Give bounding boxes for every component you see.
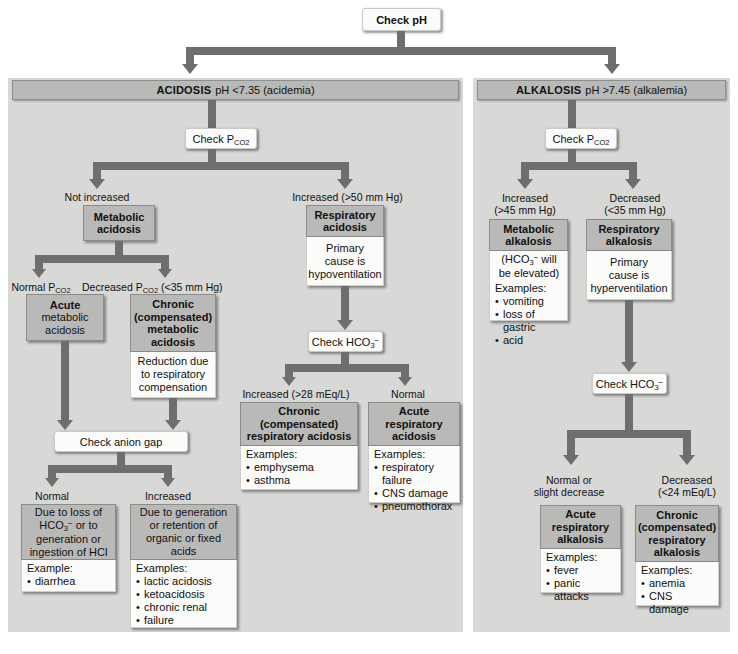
list-item: fever bbox=[546, 564, 616, 577]
acidosis-check-pco2-box: Check PCO2 bbox=[185, 128, 257, 149]
ac-resp-alk-l3: alkalosis bbox=[557, 533, 603, 545]
acid-hco3-drop-left bbox=[285, 364, 293, 378]
flowchart-canvas: Check pH ACIDOSIS pH <7.35 (acidemia) Ch… bbox=[0, 0, 738, 654]
alk-hco3-bus bbox=[567, 430, 691, 438]
anion-arrow-right bbox=[161, 478, 175, 487]
list-item: pneumothorax bbox=[374, 500, 455, 513]
chronic-met-l1: Chronic bbox=[152, 298, 194, 310]
met-acid-stem bbox=[115, 241, 123, 255]
met-acid-drop-right bbox=[161, 255, 169, 270]
alk-pco2-arrow-left bbox=[517, 179, 533, 189]
chr-resp-alk-l2: (compensated) bbox=[638, 521, 716, 533]
label-increased-50: Increased (>50 mm Hg) bbox=[285, 191, 410, 203]
alkalosis-title: ALKALOSIS bbox=[516, 84, 581, 96]
alkalosis-header-stem bbox=[568, 100, 576, 128]
label-alk-hco3-decreased: Decreased(<24 mEq/L) bbox=[646, 474, 728, 498]
respiratory-acidosis-header: Respiratory acidosis bbox=[306, 205, 384, 237]
acidosis-pco2-bus bbox=[93, 162, 349, 170]
met-alk-l2: alkalosis bbox=[505, 235, 551, 247]
alk-pco2-drop-right bbox=[629, 162, 637, 180]
chronic-met-b1: Reduction due bbox=[138, 355, 209, 367]
resp-acid-body3: hypoventilation bbox=[308, 268, 381, 280]
resp-alk-b3: hyperventilation bbox=[590, 282, 667, 294]
respiratory-alkalosis-header: Respiratory alkalosis bbox=[586, 219, 672, 251]
metabolic-alkalosis-header: Metabolic alkalosis bbox=[489, 219, 568, 251]
chronic-met-l4: acidosis bbox=[151, 336, 195, 348]
chr-resp-acid-l1: Chronic bbox=[278, 405, 320, 417]
acute-respiratory-acidosis-header: Acute respiratory acidosis bbox=[368, 402, 460, 446]
respiratory-acidosis-line2: acidosis bbox=[323, 221, 367, 233]
norm-gap-l4: ingestion of HCl bbox=[30, 546, 108, 558]
ac-resp-acid-l1: Acute bbox=[399, 405, 430, 417]
chronic-met-b3: compensation bbox=[139, 381, 208, 393]
resp-acid-body2: cause is bbox=[325, 255, 365, 267]
chr-resp-alk-ex-list: anemia CNS damage bbox=[641, 577, 714, 616]
root-bus bbox=[186, 47, 616, 55]
check-ph-label: Check pH bbox=[376, 14, 427, 26]
normal-anion-gap-box: Due to loss of HCO3− or to generation or… bbox=[21, 504, 116, 560]
ac-resp-acid-l3: acidosis bbox=[392, 430, 436, 442]
acidosis-pco2-drop-left bbox=[93, 162, 101, 180]
norm-gap-l1: Due to loss of bbox=[35, 506, 102, 518]
alk-hco3-arrow-right bbox=[679, 455, 695, 465]
root-drop-right bbox=[608, 47, 616, 65]
acidosis-header-stem bbox=[208, 100, 216, 128]
resp-acid-down-arrow bbox=[337, 320, 353, 330]
chr-resp-acid-l2: (compensated) bbox=[260, 418, 338, 430]
alk-pco2-arrow-right bbox=[625, 179, 641, 189]
metabolic-alkalosis-body: (HCO3− will be elevated) Examples: vomit… bbox=[489, 251, 568, 321]
acidosis-check-hco3-label: Check HCO3− bbox=[312, 336, 380, 348]
resp-acid-down bbox=[341, 286, 349, 321]
anion-bus bbox=[48, 465, 172, 473]
ac-resp-alk-ex-label: Examples: bbox=[546, 551, 616, 564]
met-alk-b1: (HCO3− will bbox=[495, 253, 563, 267]
list-item: CNS damage bbox=[374, 487, 455, 500]
list-item: respiratory failure bbox=[374, 461, 455, 487]
list-item: asthma bbox=[246, 474, 353, 487]
acidosis-check-hco3-box: Check HCO3− bbox=[308, 331, 383, 352]
list-item: vomiting bbox=[495, 295, 563, 308]
ac-resp-alk-l1: Acute bbox=[565, 508, 596, 520]
acidosis-panel-header: ACIDOSIS pH <7.35 (acidemia) bbox=[12, 80, 459, 100]
check-anion-gap-label: Check anion gap bbox=[80, 436, 163, 448]
acute-met-l2: metabolic bbox=[41, 311, 88, 323]
respiratory-alkalosis-body: Primary cause is hyperventilation bbox=[586, 251, 672, 300]
acute-met-l1: Acute bbox=[50, 299, 81, 311]
anion-arrow-left bbox=[45, 478, 59, 487]
chronic-met-down bbox=[169, 398, 177, 421]
root-drop-left bbox=[186, 47, 194, 65]
inc-gap-l3: organic or fixed bbox=[146, 532, 221, 544]
alkalosis-subtitle: pH >7.45 (alkalemia) bbox=[585, 84, 687, 96]
inc-gap-l1: Due to generation bbox=[140, 506, 227, 518]
alk-hco3-drop-right bbox=[683, 430, 691, 456]
metabolic-acidosis-line2: acidosis bbox=[97, 223, 141, 235]
chronic-met-l2: (compensated) bbox=[134, 311, 212, 323]
anion-drop-left bbox=[48, 465, 56, 479]
met-acid-arrow-left bbox=[32, 269, 46, 278]
chronic-respiratory-acidosis-header: Chronic (compensated) respiratory acidos… bbox=[240, 402, 358, 446]
chronic-respiratory-alkalosis-examples: Examples: anemia CNS damage bbox=[635, 562, 719, 606]
norm-gap-l3: generation or bbox=[36, 533, 101, 545]
chr-resp-alk-l3: respiratory bbox=[648, 534, 705, 546]
met-alk-ex-label: Examples: bbox=[495, 282, 563, 295]
list-item: CNS damage bbox=[641, 590, 714, 616]
respiratory-acidosis-body: Primary cause is hypoventilation bbox=[306, 237, 384, 286]
alkalosis-check-hco3-label: Check HCO3− bbox=[596, 378, 664, 390]
resp-alk-down bbox=[625, 300, 633, 363]
chr-resp-alk-l1: Chronic bbox=[656, 509, 698, 521]
acidosis-title: ACIDOSIS bbox=[156, 84, 211, 96]
root-arrow-left bbox=[182, 64, 198, 74]
ac-resp-acid-ex-label: Examples: bbox=[374, 448, 455, 461]
chr-resp-alk-l4: alkalosis bbox=[654, 546, 700, 558]
label-alk-hco3-normal: Normal orslight decrease bbox=[523, 474, 615, 498]
met-alk-ex-list: vomiting loss of gastric acid bbox=[495, 295, 563, 347]
resp-alk-b2: cause is bbox=[609, 269, 649, 281]
acidosis-pco2-stem bbox=[208, 149, 216, 162]
metabolic-acidosis-box: Metabolic acidosis bbox=[83, 205, 155, 241]
chr-resp-acid-ex-list: emphysema asthma bbox=[246, 461, 353, 487]
acute-respiratory-alkalosis-header: Acute respiratory alkalosis bbox=[540, 505, 621, 549]
list-item: diarrhea bbox=[27, 575, 111, 588]
resp-alk-l1: Respiratory bbox=[598, 223, 659, 235]
chronic-met-down-arrow bbox=[165, 420, 181, 430]
increased-anion-gap-box: Due to generation or retention of organi… bbox=[130, 504, 237, 560]
